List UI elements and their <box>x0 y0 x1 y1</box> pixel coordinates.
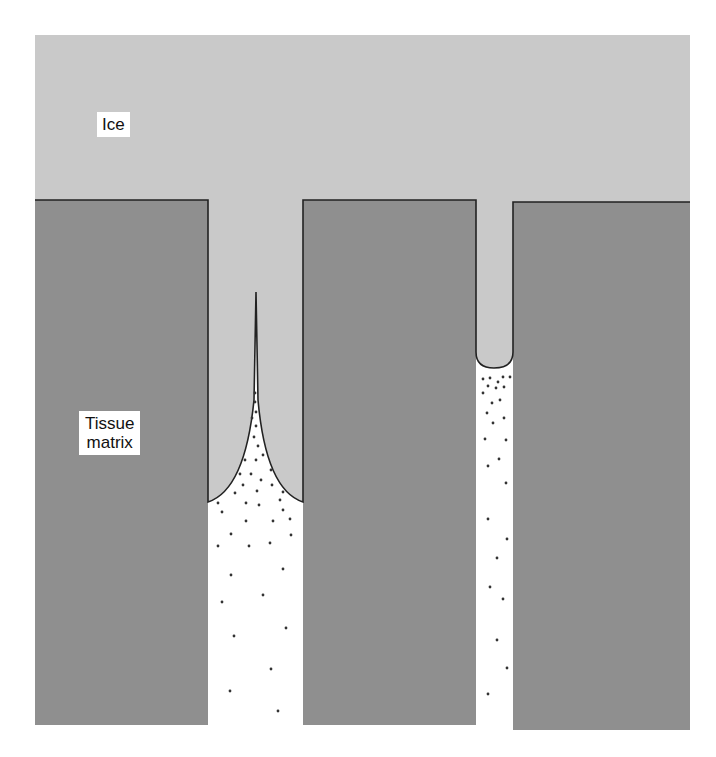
tissue-matrix-label: Tissue matrix <box>79 411 140 455</box>
tissue-label-line2: matrix <box>85 433 134 452</box>
tissue-block-middle <box>303 200 476 725</box>
tissue-block-right <box>513 202 690 730</box>
ice-label: Ice <box>97 112 130 137</box>
ice-finger-narrow <box>476 202 513 368</box>
tissue-block-left <box>35 200 208 725</box>
tissue-label-line1: Tissue <box>85 414 134 433</box>
ice-region <box>35 35 690 215</box>
